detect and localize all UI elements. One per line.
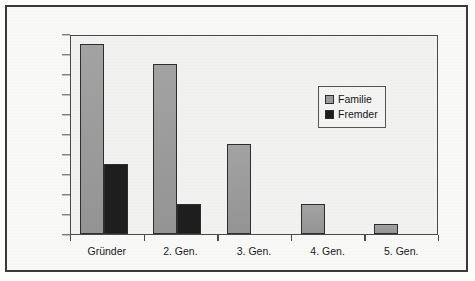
x-axis-tick-mark <box>291 235 292 241</box>
y-axis-tick-mark <box>62 74 70 75</box>
x-axis-tick-mark <box>438 235 439 241</box>
x-axis-tick-label: 4. Gen. <box>288 245 368 257</box>
plot-area: FamilieFremder <box>70 35 438 235</box>
x-axis-tick-label: 3. Gen. <box>214 245 294 257</box>
y-axis-tick-mark <box>62 34 70 35</box>
x-axis-tick-mark <box>364 235 365 241</box>
x-axis-tick-label: 2. Gen. <box>140 245 220 257</box>
legend-item-label: Fremder <box>338 108 378 120</box>
y-axis-tick-mark <box>62 214 70 215</box>
bar-familie-3 <box>301 204 325 234</box>
y-axis-tick-mark <box>62 194 70 195</box>
bar-fremder-0 <box>104 164 128 234</box>
x-axis-tick-label: 5. Gen. <box>361 245 441 257</box>
y-axis-tick-mark <box>62 94 70 95</box>
legend-item-fremder: Fremder <box>325 107 378 121</box>
legend-item-label: Familie <box>338 93 372 105</box>
y-axis-tick-mark <box>62 174 70 175</box>
chart-legend: FamilieFremder <box>318 86 386 128</box>
x-axis-tick-mark <box>144 235 145 241</box>
x-axis-tick-mark <box>217 235 218 241</box>
x-axis-tick-mark <box>70 235 71 241</box>
bar-familie-4 <box>374 224 398 234</box>
x-axis-tick-label: Gründer <box>67 245 147 257</box>
y-axis-tick-mark <box>62 154 70 155</box>
bars-container <box>71 36 437 234</box>
y-axis-tick-mark <box>62 134 70 135</box>
gray-square-icon <box>325 95 334 104</box>
bar-familie-0 <box>80 44 104 234</box>
y-axis-tick-mark <box>62 54 70 55</box>
legend-item-familie: Familie <box>325 92 378 106</box>
bar-familie-1 <box>153 64 177 234</box>
bar-fremder-1 <box>177 204 201 234</box>
y-axis-tick-mark <box>62 234 70 235</box>
figure-frame: Anzahl der Unternehmer FamilieFremder 02… <box>5 5 468 272</box>
bar-familie-2 <box>227 144 251 234</box>
y-axis-tick-mark <box>62 114 70 115</box>
black-square-icon <box>325 110 334 119</box>
chart-page: Anzahl der Unternehmer FamilieFremder 02… <box>0 0 475 281</box>
